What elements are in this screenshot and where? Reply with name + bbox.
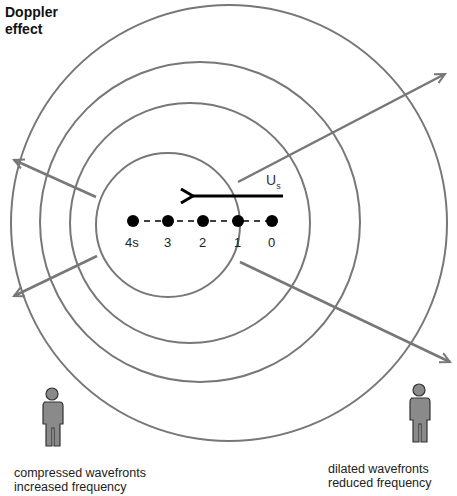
source-position-label: 2 [199, 235, 206, 250]
source-position-label: 3 [164, 235, 171, 250]
velocity-label: Us [266, 172, 281, 191]
source-position-label: 4s [125, 235, 139, 250]
caption-left: compressed wavefronts increased frequenc… [14, 466, 146, 494]
source-position-dot [127, 215, 139, 227]
observer-left-icon [43, 388, 63, 446]
wavefront-4 [11, 5, 447, 441]
source-position-label: 0 [268, 235, 275, 250]
doppler-diagram [0, 0, 457, 496]
source-position-dot [266, 215, 278, 227]
observer-right-icon [410, 384, 430, 442]
source-position-dot [197, 215, 209, 227]
ray-upper-right [238, 74, 445, 182]
source-position-dot [232, 215, 244, 227]
caption-right: dilated wavefronts reduced frequency [328, 462, 432, 490]
source-position-label: 1 [234, 235, 241, 250]
wavefront-circles [11, 5, 447, 441]
source-position-dot [162, 215, 174, 227]
